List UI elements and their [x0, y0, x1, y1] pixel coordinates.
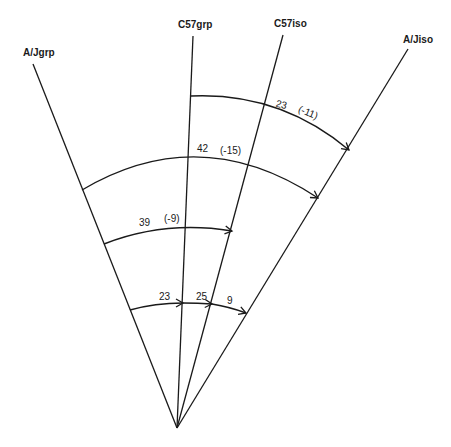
ray-label-ajiso: A/Jiso	[403, 34, 433, 45]
arc-bottom-seg2	[183, 303, 212, 304]
arc-third-value: 39	[139, 217, 151, 228]
ray-c57iso	[177, 35, 283, 428]
ray-ajgrp	[33, 64, 177, 428]
arc-second	[82, 157, 318, 198]
arc-bottom-seg2-value: 25	[196, 291, 208, 302]
angle-diagram: A/Jgrp C57grp C57iso A/Jiso 23 (-11) 42 …	[0, 0, 451, 447]
arc-third	[104, 228, 232, 244]
arc-top	[191, 96, 349, 150]
ray-label-c57grp: C57grp	[178, 19, 212, 30]
ray-c57grp	[177, 36, 193, 428]
arc-bottom-seg1	[130, 303, 183, 310]
arc-bottom-seg3-value: 9	[227, 295, 233, 306]
ray-label-ajgrp: A/Jgrp	[23, 47, 55, 58]
arc-top-value: 23	[275, 98, 289, 111]
ray-label-c57iso: C57iso	[274, 18, 307, 29]
arc-second-value: 42	[197, 143, 209, 154]
ray-ajiso	[177, 49, 408, 428]
arc-third-change: (-9)	[164, 213, 180, 224]
arc-bottom-seg1-value: 23	[159, 291, 171, 302]
arc-second-change: (-15)	[220, 145, 241, 156]
